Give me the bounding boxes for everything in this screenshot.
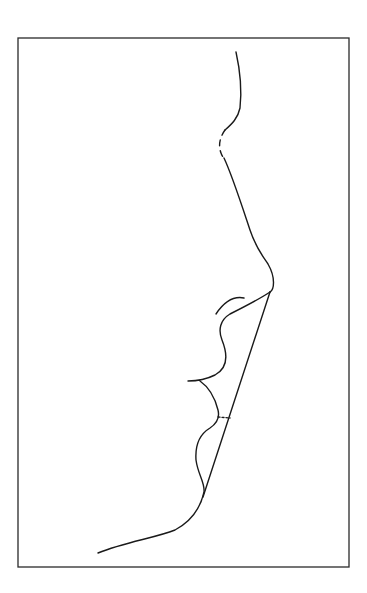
nasion-dashed-segment: [220, 130, 225, 158]
lip-distance-marker: [218, 417, 230, 418]
frame-border: [18, 38, 349, 567]
forehead-profile: [225, 52, 241, 130]
nasal-dorsum-profile: [224, 158, 274, 292]
lip-chin-profile: [98, 292, 270, 553]
nostril-ala: [216, 298, 244, 314]
aesthetic-line: [203, 292, 270, 497]
profile-diagram: [0, 0, 367, 593]
